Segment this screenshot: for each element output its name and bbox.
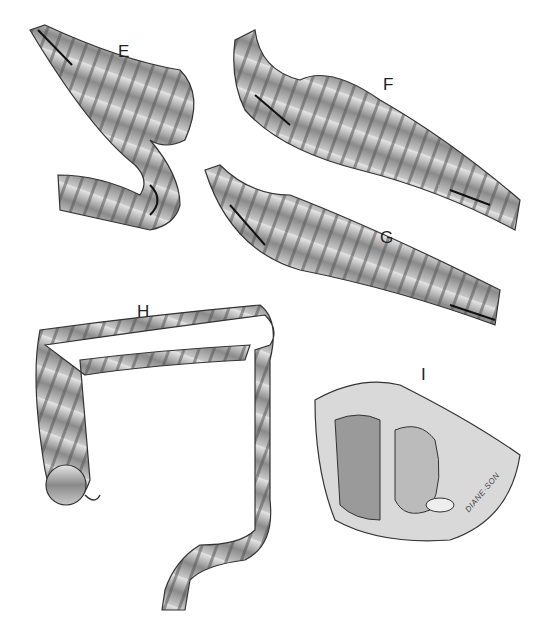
- panel-label-e: E: [118, 42, 129, 62]
- panel-label-h: H: [137, 302, 149, 322]
- panel-label-f: F: [383, 75, 393, 95]
- panel-h-colon-drawing: [36, 305, 274, 610]
- illustration-canvas: [0, 0, 547, 629]
- panel-label-g: G: [380, 228, 393, 248]
- panel-e-drawing: [30, 25, 194, 230]
- panel-label-i: I: [421, 365, 426, 385]
- panel-i-pelvis-drawing: [315, 382, 520, 541]
